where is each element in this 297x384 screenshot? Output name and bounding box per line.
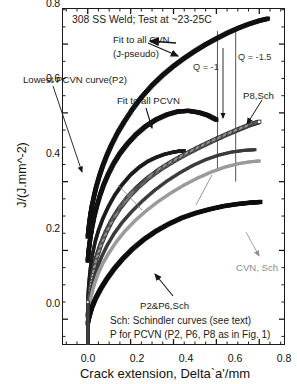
y-tick-label: 0.8	[26, 0, 60, 9]
caption-line-2: P for PCVN (P2, P6, P8 as in Fig. 1)	[110, 329, 270, 340]
x-tick-label: 0.8	[264, 352, 297, 364]
chart-figure: 0.0 0.2 0.4 0.6 0.8 0.0 0.2 0.4 0.6 0.8 …	[0, 0, 297, 384]
annotation-fit-all-cvn: Fit to all CVN	[113, 34, 170, 45]
annotation-q-minus-1p5: Q = -1.5	[238, 52, 271, 62]
x-axis-title: Crack extension, Delta`a'/mm	[40, 366, 290, 381]
caption-line-1: Sch: Schindler curves (see text)	[110, 315, 251, 326]
annotation-q-minus-1: Q = -1	[193, 62, 219, 72]
annotation-p8-sch: P8,Sch	[243, 90, 274, 101]
x-tick-label: 0.2	[117, 352, 157, 364]
chart-title: 308 SS Weld; Test at ~23-25C	[72, 14, 212, 25]
x-tick-label: 0.4	[166, 352, 206, 364]
x-tick-label: 0.0	[68, 352, 108, 364]
y-tick-label: 0.0	[26, 297, 60, 309]
annotation-p2-p6-sch: P2&P6,Sch	[140, 300, 189, 311]
y-tick-label: 0.2	[26, 222, 60, 234]
y-axis-title: J/(J.mm^-2)	[15, 120, 29, 230]
annotation-cvn-sch: CVN, Sch	[236, 262, 278, 273]
x-tick-label: 0.6	[215, 352, 255, 364]
annotation-lowest-pcvn: Lowest PCVN curve(P2)	[23, 74, 127, 85]
y-tick-label: 0.4	[26, 147, 60, 159]
annotation-fit-all-pcvn: Fit to all PCVN	[117, 95, 180, 106]
annotation-j-pseudo: (J-pseudo)	[113, 48, 159, 59]
